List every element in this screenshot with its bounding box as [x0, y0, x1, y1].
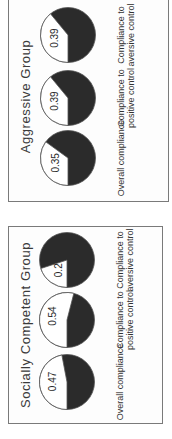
pie-chart: 0.39	[40, 70, 96, 126]
pie-label: Compliance to aversive control	[116, 0, 136, 80]
pie-chart: 0.35	[40, 130, 96, 186]
panel-title: Socially Competent Group	[18, 227, 33, 423]
panel-socially-competent: Socially Competent Group 0.47 Overall co…	[8, 226, 163, 424]
panel-aggressive: Aggressive Group 0.35 Overall compliance…	[8, 0, 169, 202]
pie-chart: 0.39	[40, 7, 96, 63]
panel-title: Aggressive Group	[18, 0, 33, 201]
pie-value-label: 0.35	[50, 153, 61, 173]
pie-chart: 0.54	[39, 292, 95, 348]
pie-chart: 0.2	[39, 232, 95, 288]
pie-chart: 0.47	[39, 354, 95, 410]
pie-label: Compliance to aversive control	[115, 215, 135, 305]
pie-value-label: 0.39	[49, 91, 60, 111]
pie-value-label: 0.47	[47, 371, 58, 391]
pie-value-label: 0.39	[49, 28, 60, 48]
pie-value-label: 0.54	[47, 306, 58, 326]
figure: Socially Competent Group 0.47 Overall co…	[0, 0, 172, 439]
pie-value-label: 0.2	[53, 263, 64, 277]
